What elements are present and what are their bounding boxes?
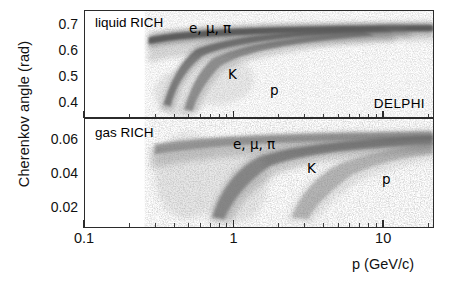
panel-liquid-rich: liquid RICH e, μ, π K p DELPHI xyxy=(84,10,434,118)
band-label-lepton-pion-liquid: e, μ, π xyxy=(189,20,231,36)
y-tick-label: 0.5 xyxy=(59,68,78,84)
y-tick-label: 0.6 xyxy=(59,42,78,58)
x-tick-label: 1 xyxy=(230,230,238,246)
panel-title-liquid: liquid RICH xyxy=(95,15,163,30)
y-tick-label: 0.04 xyxy=(51,165,78,181)
y-tick-label: 0.02 xyxy=(51,199,78,215)
figure-rich-cherenkov-angle: Cherenkov angle (rad) 0.40.50.60.70.020.… xyxy=(0,0,452,284)
band-label-proton-liquid: p xyxy=(270,82,279,98)
panel-title-gas: gas RICH xyxy=(95,125,154,140)
y-tick-label: 0.06 xyxy=(51,131,78,147)
band-label-proton-gas: p xyxy=(382,171,391,187)
y-tick-label: 0.7 xyxy=(59,16,78,32)
y-tick-label: 0.4 xyxy=(59,94,78,110)
band-label-kaon-liquid: K xyxy=(228,66,237,82)
band-label-kaon-gas: K xyxy=(307,160,316,176)
x-axis-tick-labels: 0.1110 xyxy=(0,230,452,252)
panel-gas-rich: gas RICH e, μ, π K p xyxy=(84,118,434,228)
x-tick-label: 10 xyxy=(375,230,391,246)
band-label-lepton-pion-gas: e, μ, π xyxy=(233,136,275,152)
x-tick-label: 0.1 xyxy=(74,230,94,246)
x-axis-title: p (GeV/c) xyxy=(352,256,414,272)
experiment-label: DELPHI xyxy=(374,96,425,111)
